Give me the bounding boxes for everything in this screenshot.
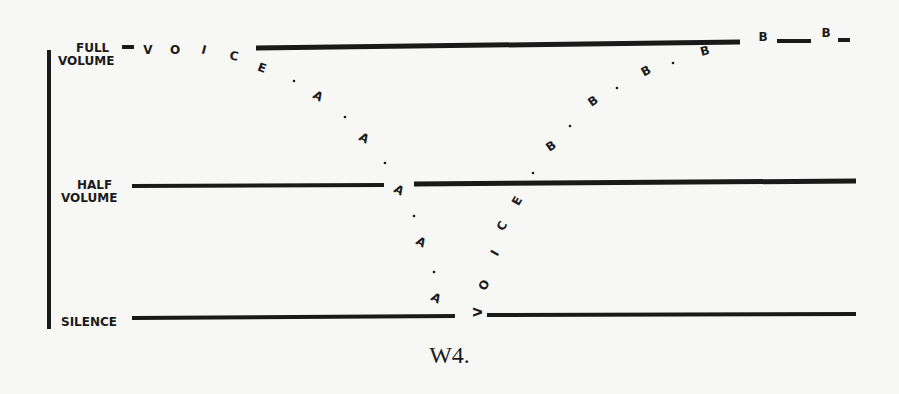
label-half: HALF: [77, 178, 112, 192]
voice-a-letter: A: [391, 182, 407, 199]
figure-caption: W4.: [0, 342, 899, 369]
voice-a-letter: A: [310, 88, 326, 105]
voice-fade-in-path: VOICEBBBBBB: [471, 26, 831, 317]
voice-a-dot: [344, 116, 347, 119]
voice-b-letter: V: [471, 307, 485, 317]
voice-b-letter: C: [494, 219, 511, 234]
half-line-right: [414, 181, 856, 184]
voice-a-dot: [433, 271, 436, 274]
volume-diagram: FULL VOLUME HALF VOLUME SILENCE VOICEAAA…: [0, 0, 899, 394]
voice-a-letter: A: [413, 234, 429, 251]
voice-a-letter: C: [228, 48, 239, 63]
voice-b-letter: B: [585, 93, 601, 110]
voice-b-dot: [616, 87, 619, 90]
voice-a-letter: A: [356, 130, 372, 147]
silence-line-left: [132, 316, 455, 318]
voice-b-letter: B: [821, 26, 830, 40]
voice-a-letter: A: [428, 290, 444, 307]
voice-b-letter: I: [488, 248, 502, 259]
voice-b-letter: B: [758, 30, 767, 44]
voice-b-dot: [532, 172, 535, 175]
label-silence: SILENCE: [61, 315, 117, 329]
voice-a-letter: E: [256, 60, 268, 76]
voice-b-letter: B: [639, 63, 654, 80]
voice-fade-out-path: VOICEAAAAA: [143, 43, 444, 307]
volume-lines: [49, 40, 856, 329]
label-full-volume: VOLUME: [58, 54, 114, 68]
voice-a-dot: [384, 162, 387, 165]
voice-a-letter: I: [200, 43, 208, 58]
voice-b-letter: B: [699, 43, 711, 59]
voice-a-dot: [413, 215, 416, 218]
voice-b-letter: O: [475, 277, 492, 293]
voice-a-dot: [293, 80, 296, 83]
label-full: FULL: [76, 41, 110, 55]
half-line-left: [132, 185, 384, 186]
voice-b-dot: [569, 125, 572, 128]
voice-a-letter: V: [143, 43, 153, 57]
voice-b-letter: B: [543, 138, 559, 155]
silence-line-right: [487, 314, 856, 315]
voice-b-dot: [672, 62, 675, 65]
full-line: [256, 42, 740, 48]
voice-a-letter: O: [170, 43, 180, 57]
label-half-volume: VOLUME: [61, 191, 117, 205]
voice-b-letter: E: [509, 194, 525, 208]
